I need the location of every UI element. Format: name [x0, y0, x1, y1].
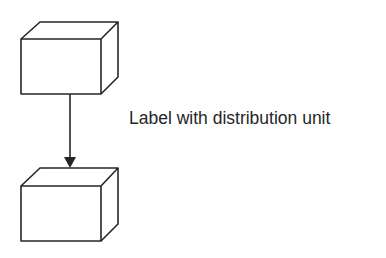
cube-top-front-face: [21, 39, 101, 94]
cube-top-side-face: [101, 22, 118, 94]
cube-bottom-front-face: [21, 186, 101, 241]
cube-bottom: [21, 168, 118, 241]
diagram-canvas: [0, 0, 386, 258]
cube-bottom-side-face: [101, 168, 118, 241]
connector-arrow: [64, 94, 76, 168]
cube-top-top-face: [21, 22, 118, 39]
cube-bottom-top-face: [21, 168, 118, 186]
edge-label: Label with distribution unit: [129, 108, 330, 128]
arrowhead-icon: [64, 157, 76, 168]
cube-top: [21, 22, 118, 94]
